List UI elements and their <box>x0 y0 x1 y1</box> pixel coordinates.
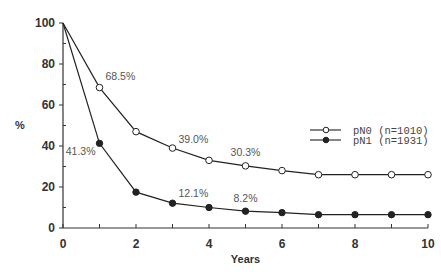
filled-circle-marker-icon <box>425 211 431 217</box>
filled-circle-marker-icon <box>133 189 139 195</box>
x-tick-label: 8 <box>352 237 359 251</box>
filled-circle-marker-icon <box>388 211 394 217</box>
x-tick-label: 6 <box>279 237 286 251</box>
survival-chart: 0204060801000246810Years% 68.5%39.0%30.3… <box>0 0 441 279</box>
legend-label: pN1 (n=1931) <box>353 135 429 147</box>
filled-circle-marker-icon <box>206 204 212 210</box>
x-tick-label: 0 <box>60 237 67 251</box>
y-tick-label: 0 <box>48 221 55 235</box>
filled-circle-marker-icon <box>279 209 285 215</box>
data-annotation: 39.0% <box>179 133 209 145</box>
open-circle-marker-icon <box>96 84 103 91</box>
y-tick-label: 20 <box>42 180 56 194</box>
data-annotation: 8.2% <box>234 192 258 204</box>
y-tick-label: 80 <box>42 57 56 71</box>
annotations: 68.5%39.0%30.3%41.3%12.1%8.2% <box>66 70 261 205</box>
filled-circle-marker-icon <box>352 211 358 217</box>
y-axis-title: % <box>15 119 25 131</box>
open-circle-marker-icon <box>388 171 395 178</box>
data-annotation: 41.3% <box>66 145 96 157</box>
open-circle-marker-icon <box>352 171 359 178</box>
filled-circle-marker-icon <box>242 208 248 214</box>
series-line-1 <box>63 23 428 215</box>
filled-circle-marker-icon <box>96 140 102 146</box>
y-tick-label: 40 <box>42 139 56 153</box>
filled-circle-marker-icon <box>169 200 175 206</box>
legend-open-circle-icon <box>323 127 329 133</box>
open-circle-marker-icon <box>169 145 176 152</box>
data-annotation: 30.3% <box>231 146 261 158</box>
open-circle-marker-icon <box>133 128 140 135</box>
x-axis-title: Years <box>231 253 260 265</box>
data-annotation: 68.5% <box>106 70 136 82</box>
legend: pN0 (n=1010)pN1 (n=1931) <box>310 125 429 147</box>
open-circle-marker-icon <box>206 157 213 164</box>
open-circle-marker-icon <box>242 163 249 170</box>
open-circle-marker-icon <box>279 167 286 174</box>
x-tick-label: 2 <box>133 237 140 251</box>
y-tick-label: 100 <box>35 16 55 30</box>
x-tick-label: 10 <box>421 237 435 251</box>
open-circle-marker-icon <box>315 171 322 178</box>
open-circle-marker-icon <box>425 171 432 178</box>
legend-filled-circle-icon <box>323 137 329 143</box>
series-lines <box>63 23 431 218</box>
y-tick-label: 60 <box>42 98 56 112</box>
data-annotation: 12.1% <box>179 187 209 199</box>
x-tick-label: 4 <box>206 237 213 251</box>
filled-circle-marker-icon <box>315 211 321 217</box>
